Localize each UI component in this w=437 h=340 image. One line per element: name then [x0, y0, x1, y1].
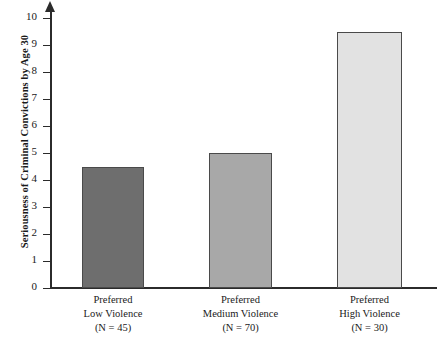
y-axis-tick-label: 8 [1, 64, 37, 76]
y-axis-tick-label: 6 [1, 118, 37, 130]
bar [82, 167, 144, 289]
y-axis-tick-label: 5 [1, 145, 37, 157]
y-axis-tick-label: 10 [1, 10, 37, 22]
y-axis-tick-label: 9 [1, 37, 37, 49]
y-axis-tick-label: 0 [1, 280, 37, 292]
y-axis-tick-label: 7 [1, 91, 37, 103]
y-axis-tick-mark [43, 126, 51, 127]
y-axis-tick-mark [43, 207, 51, 208]
bar [209, 153, 272, 288]
y-axis-tick-mark [43, 18, 51, 19]
y-axis-tick-label: 1 [1, 253, 37, 265]
y-axis-tick-mark [43, 45, 51, 46]
y-axis-tick-label: 2 [1, 226, 37, 238]
y-axis-tick-mark [43, 234, 51, 235]
y-axis-line [50, 10, 52, 289]
bar [337, 32, 402, 289]
y-axis-tick-label: 3 [1, 199, 37, 211]
category-label-line: High Violence [280, 307, 437, 321]
y-axis-tick-mark [43, 261, 51, 262]
category-label-line: (N = 30) [280, 321, 437, 335]
x-axis-category-label: PreferredHigh Violence(N = 30) [280, 293, 437, 335]
y-axis-tick-mark [43, 72, 51, 73]
y-axis-tick-mark [43, 288, 51, 289]
y-axis-tick-mark [43, 153, 51, 154]
y-axis-tick-label: 4 [1, 172, 37, 184]
bar-chart: Seriousness of Criminal Convictions by A… [0, 0, 437, 340]
category-label-line: Preferred [280, 293, 437, 307]
y-axis-arrow-icon [45, 1, 55, 12]
y-axis-tick-mark [43, 180, 51, 181]
y-axis-tick-mark [43, 99, 51, 100]
